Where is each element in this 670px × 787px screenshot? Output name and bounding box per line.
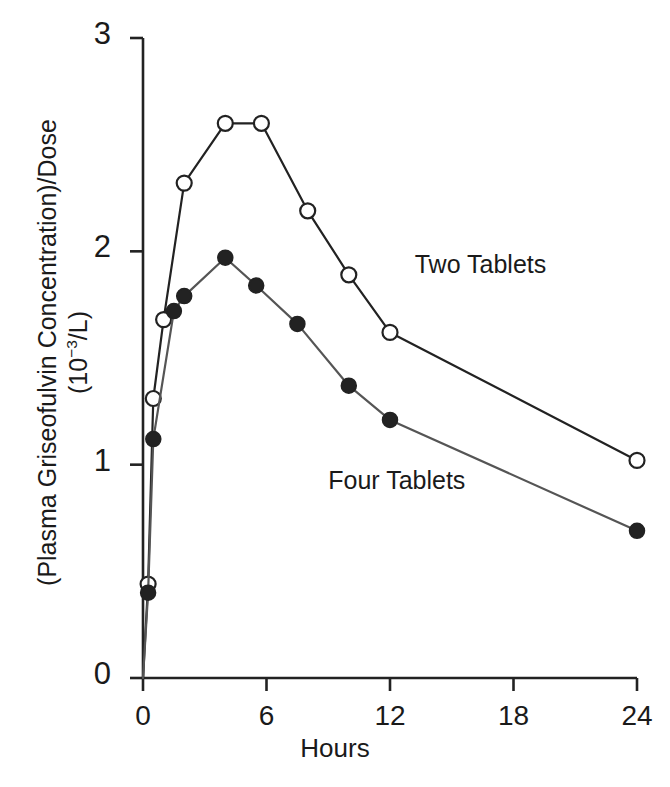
x-tick-label-18: 18 — [484, 700, 544, 732]
y-tick-label-2: 2 — [71, 229, 111, 265]
y-tick-label-0: 0 — [71, 656, 111, 692]
data-point — [249, 278, 264, 293]
data-point — [300, 203, 315, 218]
x-axis-ticks — [143, 678, 637, 691]
data-point — [630, 523, 645, 538]
data-point — [218, 250, 233, 265]
x-tick-label-12: 12 — [360, 700, 420, 732]
y-tick-label-3: 3 — [71, 16, 111, 52]
chart-figure: (Plasma Griseofulvin Concentration)/Dose… — [0, 0, 670, 787]
x-tick-label-6: 6 — [237, 700, 297, 732]
y-axis-title-line1: (Plasma Griseofulvin Concentration)/Dose — [33, 119, 61, 586]
y-axis-unit-exponent: −3 — [63, 340, 80, 358]
data-point — [218, 116, 233, 131]
data-point — [290, 316, 305, 331]
data-point — [177, 176, 192, 191]
y-axis-title-line2: (10−3/L) — [62, 53, 93, 653]
series-two-tablets — [141, 116, 645, 678]
y-axis-unit-suffix: /L) — [63, 311, 91, 340]
x-tick-label-0: 0 — [113, 700, 173, 732]
data-point — [341, 378, 356, 393]
data-series-group — [141, 116, 645, 678]
y-axis-unit-prefix: (10 — [63, 358, 91, 394]
series-label-two-tablets: Two Tablets — [415, 250, 547, 279]
data-point — [254, 116, 269, 131]
data-point — [141, 585, 156, 600]
data-point — [177, 289, 192, 304]
data-point — [166, 304, 181, 319]
x-axis-title: Hours — [0, 733, 670, 764]
y-axis-title: (Plasma Griseofulvin Concentration)/Dose… — [32, 53, 93, 653]
x-tick-label-24: 24 — [607, 700, 667, 732]
series-label-four-tablets: Four Tablets — [328, 466, 465, 495]
y-tick-label-1: 1 — [71, 443, 111, 479]
series-four-tablets — [141, 250, 645, 678]
data-point — [341, 267, 356, 282]
series-line — [143, 123, 637, 678]
data-point — [383, 412, 398, 427]
data-point — [383, 325, 398, 340]
data-point — [630, 453, 645, 468]
data-point — [146, 432, 161, 447]
